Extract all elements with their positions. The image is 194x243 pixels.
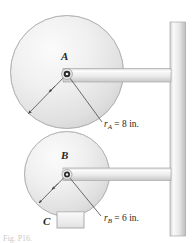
- vertical-wall-post: [170, 22, 186, 236]
- block-C-label: C: [43, 216, 50, 227]
- pulley-B-label: B: [61, 150, 68, 161]
- pulley-A-hub: [62, 69, 73, 80]
- radius-A-annotation: rA = 8 in.: [104, 120, 139, 131]
- block-C: [57, 212, 84, 228]
- radius-B-value: = 6 in.: [112, 213, 139, 223]
- arm-B: [63, 168, 171, 181]
- arm-A: [63, 69, 171, 83]
- radius-B-annotation: rB = 6 in.: [104, 214, 139, 225]
- radius-A-value: = 8 in.: [112, 119, 139, 129]
- figure-caption: Fig. P16.: [3, 234, 123, 243]
- pulley-B-hub: [62, 170, 72, 180]
- pulley-figure: A B C rA = 8 in. rB = 6 in. Fig. P16.: [0, 0, 194, 243]
- pulley-A-label: A: [61, 51, 68, 62]
- figure-canvas: [0, 0, 194, 243]
